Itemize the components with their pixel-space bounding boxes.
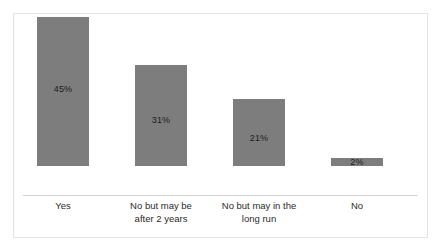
category-label-no-after-2-years: No but may be after 2 years <box>109 200 213 225</box>
bar-rect-no-after-2-years[interactable]: 31% <box>135 65 187 166</box>
bar-group-no-long-run: 21% No but may in the long run <box>210 14 308 237</box>
category-label-no-long-run: No but may in the long run <box>207 200 311 225</box>
category-label-no: No <box>305 200 409 213</box>
bar-group-no-after-2-years: 31% No but may be after 2 years <box>112 14 210 237</box>
bar-group-yes: 45% Yes <box>14 14 112 237</box>
plot-area: 45% Yes 31% No but may be after 2 years … <box>14 14 427 237</box>
bar-rect-no-long-run[interactable]: 21% <box>233 99 285 166</box>
bar-rect-no[interactable]: 2% <box>331 158 383 166</box>
bar-group-no: 2% No <box>308 14 406 237</box>
chart-frame: 45% Yes 31% No but may be after 2 years … <box>13 13 428 238</box>
bar-rect-yes[interactable]: 45% <box>37 17 89 166</box>
bar-value-label-no-after-2-years: 31% <box>135 115 187 125</box>
category-label-yes: Yes <box>11 200 115 213</box>
bar-value-label-no: 2% <box>331 157 383 167</box>
bar-value-label-no-long-run: 21% <box>233 133 285 143</box>
bar-value-label-yes: 45% <box>37 84 89 94</box>
